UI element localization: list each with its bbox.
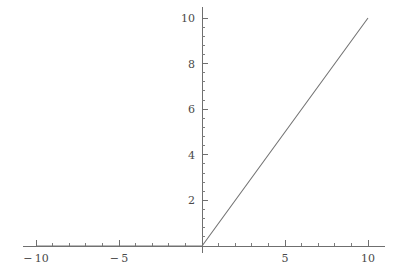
y-axis-tick-label: 6 [188,103,195,116]
plot-background [0,0,393,276]
x-axis-tick-label: − 10 [23,252,48,265]
y-axis-tick-label: 4 [188,149,195,162]
x-axis-tick-label: 10 [361,252,375,265]
plot-figure: − 10− 5510 246810 [0,0,393,276]
x-axis-tick-label: − 5 [110,252,128,265]
plot-canvas: − 10− 5510 246810 [0,0,393,276]
x-axis-tick-label: 5 [282,252,289,265]
y-axis-tick-label: 10 [181,12,195,25]
y-axis-tick-label: 8 [188,58,195,71]
y-axis-tick-label: 2 [188,194,195,207]
